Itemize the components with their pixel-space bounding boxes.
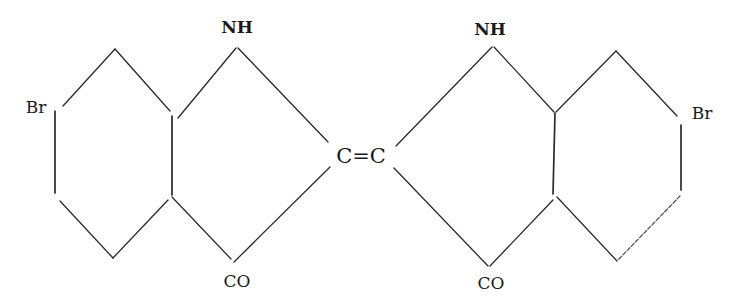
- central-double-bond-label: C=C: [336, 146, 386, 167]
- bond: [618, 196, 680, 260]
- left-benzene-ring: [55, 49, 172, 258]
- bond: [556, 51, 616, 112]
- bond: [494, 47, 554, 112]
- bond: [616, 51, 677, 116]
- bond: [115, 49, 170, 111]
- nh-left-label: NH: [221, 19, 253, 36]
- bond: [557, 197, 617, 261]
- bond: [394, 168, 488, 266]
- bond: [178, 48, 236, 118]
- co-right-label: CO: [478, 275, 505, 292]
- bond: [113, 200, 168, 258]
- bond: [63, 49, 115, 106]
- bond: [172, 197, 231, 259]
- bond: [60, 201, 113, 258]
- nh-right-label: NH: [474, 21, 506, 38]
- co-left-label: CO: [224, 273, 251, 290]
- bond: [396, 47, 492, 146]
- br-left-label: Br: [26, 99, 47, 116]
- right-pyrrole-ring: [394, 47, 554, 266]
- bond: [234, 167, 330, 262]
- left-pyrrole-ring: [172, 48, 330, 262]
- br-right-label: Br: [692, 105, 713, 122]
- bond: [553, 113, 555, 194]
- right-benzene-ring: [553, 51, 681, 261]
- bond: [490, 200, 553, 266]
- bond: [238, 48, 328, 142]
